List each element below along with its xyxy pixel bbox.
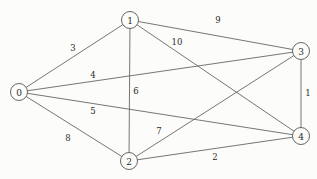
nodes-group: 01234	[11, 12, 310, 170]
edge-weight-label-1-4: 10	[172, 37, 183, 47]
edge-weight-label-0-3: 4	[90, 70, 95, 80]
graph-node-label-3: 3	[298, 47, 304, 57]
edge-weight-label-0-1: 3	[70, 43, 75, 53]
graph-edge-0-1	[26, 25, 123, 88]
graph-node-label-2: 2	[126, 157, 132, 167]
graph-node-label-0: 0	[16, 88, 22, 98]
weighted-graph-figure: 34586109172 01234	[0, 0, 317, 179]
graph-edge-1-4	[137, 25, 294, 131]
graph-edge-1-3	[138, 22, 292, 50]
edge-weight-label-2-3: 7	[156, 126, 161, 136]
graph-edge-2-3	[136, 56, 294, 157]
graph-canvas: 34586109172 01234	[0, 0, 317, 179]
graph-node-label-4: 4	[298, 132, 304, 142]
edge-weight-label-0-4: 5	[90, 106, 95, 116]
graph-edge-0-3	[27, 52, 292, 91]
edge-weight-label-1-3: 9	[215, 15, 220, 25]
edge-weight-label-0-2: 8	[65, 133, 70, 143]
graph-edge-1-2	[129, 29, 130, 153]
edge-weight-label-1-2: 6	[133, 86, 138, 96]
graph-node-label-1: 1	[127, 16, 133, 26]
edge-weight-label-2-4: 2	[212, 152, 217, 162]
edge-weight-label-3-4: 1	[305, 88, 310, 98]
